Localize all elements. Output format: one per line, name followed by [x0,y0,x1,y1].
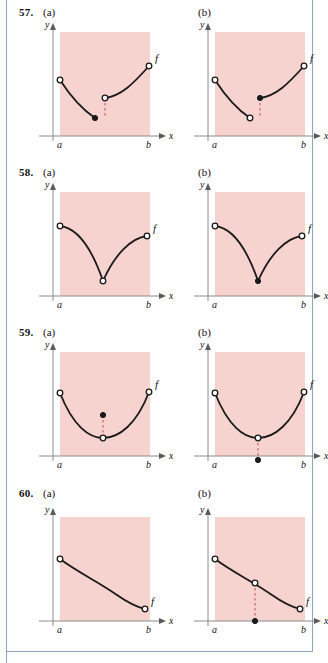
x-axis-label: x [323,615,328,626]
part-label-b: (b) [198,487,211,499]
open-circle-point [144,233,150,239]
tick-label-b: b [146,139,151,148]
y-axis-arrow-icon [205,183,211,190]
graph-60b: yxabf [188,503,328,633]
open-circle-point [247,115,253,121]
open-circle-point [212,223,218,229]
tick-label-a: a [212,624,217,633]
shaded-region [215,32,305,136]
function-label-f: f [310,52,315,64]
y-axis-label: y [44,179,50,190]
y-axis-label: y [44,504,50,515]
open-circle-point [100,278,106,284]
y-axis-arrow-icon [205,343,211,350]
open-circle-point [57,77,63,83]
filled-dot-point [255,457,260,462]
tick-label-a: a [57,624,62,633]
y-axis-label: y [199,504,205,515]
part-label-b: (b) [198,166,211,178]
problem-number: 60. [19,487,33,499]
y-axis-arrow-icon [50,508,56,515]
x-axis-arrow-icon [159,133,166,139]
part-label-b: (b) [198,326,211,338]
open-circle-point [212,556,218,562]
graph-59b: yxabf [188,338,328,468]
graph-60a: yxabf [33,503,173,633]
graph-57a: yxabf [33,18,173,148]
open-circle-point [100,435,106,441]
function-label-f: f [308,222,313,234]
tick-label-b: b [146,624,151,633]
y-axis-label: y [44,19,50,30]
y-axis-arrow-icon [50,23,56,30]
problem-59: 59. (a) (b) yxabf yxabf [0,326,326,481]
tick-label-a: a [212,139,217,148]
y-axis-arrow-icon [205,23,211,30]
open-circle-point [212,390,218,396]
open-circle-point [102,95,108,101]
x-axis-arrow-icon [314,618,321,624]
y-axis-arrow-icon [50,343,56,350]
graph-59a: yxabf [33,338,173,468]
x-axis-arrow-icon [159,618,166,624]
x-axis-label: x [168,290,173,301]
shaded-region [60,32,150,136]
tick-label-b: b [146,299,151,308]
y-axis-arrow-icon [205,508,211,515]
part-label-a: (a) [43,326,55,338]
function-label-f: f [306,595,311,607]
x-axis-arrow-icon [314,133,321,139]
x-axis-arrow-icon [159,293,166,299]
function-label-f: f [153,222,158,234]
open-circle-point [301,389,307,395]
y-axis-arrow-icon [50,183,56,190]
open-circle-point [299,233,305,239]
function-label-f: f [155,52,160,64]
open-circle-point [255,435,261,441]
x-axis-label: x [168,450,173,461]
filled-dot-point [100,412,105,417]
y-axis-label: y [44,339,50,350]
tick-label-a: a [57,139,62,148]
open-circle-point [57,223,63,229]
graph-57b: yxabf [188,18,328,148]
y-axis-label: y [199,19,205,30]
tick-label-b: b [301,299,306,308]
part-label-a: (a) [43,166,55,178]
open-circle-point [146,389,152,395]
tick-label-b: b [301,139,306,148]
y-axis-label: y [199,339,205,350]
y-axis-label: y [199,179,205,190]
tick-label-b: b [301,459,306,468]
problem-60: 60. (a) (b) yxabf yxabf [0,487,326,647]
tick-label-a: a [57,459,62,468]
filled-dot-point [257,95,262,100]
x-axis-arrow-icon [314,453,321,459]
x-axis-label: x [323,450,328,461]
tick-label-a: a [212,299,217,308]
tick-label-a: a [57,299,62,308]
tick-label-b: b [301,624,306,633]
part-label-b: (b) [198,6,211,18]
part-label-a: (a) [43,487,55,499]
open-circle-point [57,390,63,396]
page-frame-bottom-rule [6,651,313,652]
problem-57: 57. (a) (b) yxabf yxabf [0,6,326,161]
x-axis-label: x [323,130,328,141]
open-circle-point [146,63,152,69]
open-circle-point [57,556,63,562]
filled-dot-point [255,278,260,283]
filled-dot-point [92,115,97,120]
tick-label-b: b [146,459,151,468]
x-axis-arrow-icon [159,453,166,459]
problem-number: 57. [19,6,33,18]
function-label-f: f [151,595,156,607]
problem-number: 58. [19,166,33,178]
filled-dot-point [252,618,257,623]
open-circle-point [142,606,148,612]
part-label-a: (a) [43,6,55,18]
x-axis-label: x [323,290,328,301]
problem-number: 59. [19,326,33,338]
x-axis-label: x [168,615,173,626]
